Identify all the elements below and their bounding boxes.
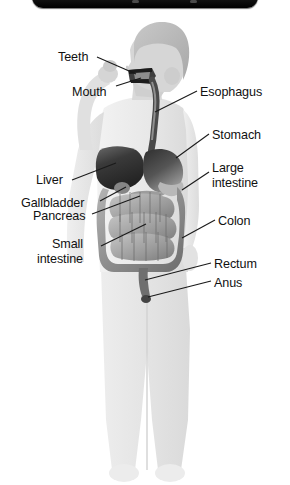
ear xyxy=(164,67,180,85)
label-mouth: Mouth xyxy=(72,85,107,100)
label-esophagus: Esophagus xyxy=(200,85,262,100)
shoe-left xyxy=(109,464,139,482)
shoe-right xyxy=(155,464,185,482)
label-rectum: Rectum xyxy=(214,257,257,272)
tongue xyxy=(134,72,150,79)
label-stomach: Stomach xyxy=(212,128,261,143)
food-item xyxy=(103,60,117,72)
label-pancreas: Pancreas xyxy=(33,209,85,224)
label-colon: Colon xyxy=(218,214,250,229)
small-intestine-organ xyxy=(108,192,176,261)
label-large-intestine: Large intestine xyxy=(212,161,258,190)
label-small-intestine: Small intestine xyxy=(37,237,83,266)
label-anus: Anus xyxy=(214,276,242,291)
label-teeth: Teeth xyxy=(58,50,88,65)
label-liver: Liver xyxy=(36,173,63,188)
